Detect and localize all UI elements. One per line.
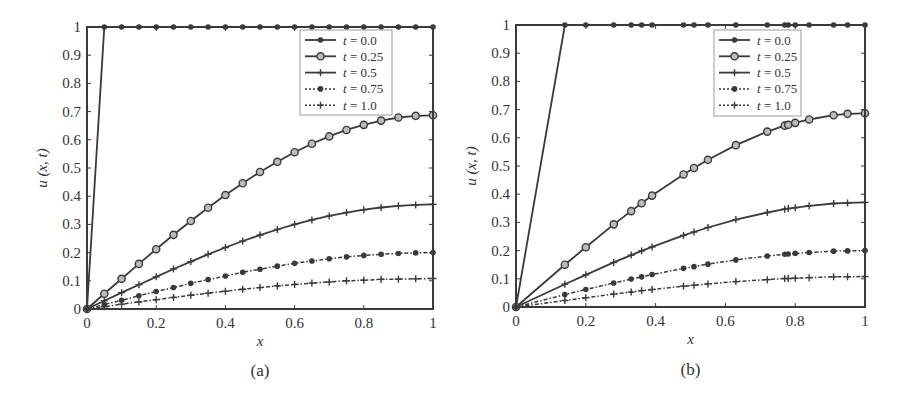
legend-value: = 0.25 — [347, 49, 384, 64]
legend-label: t = 0.0 — [757, 33, 791, 48]
marker-dot — [292, 261, 298, 267]
series-line — [516, 202, 865, 307]
marker-circle — [326, 133, 333, 140]
marker-dot — [344, 254, 350, 260]
marker-dot — [309, 258, 315, 264]
marker-circle — [582, 244, 589, 251]
y-tick-label: 0.7 — [62, 104, 81, 120]
legend-label: t = 0.25 — [343, 49, 383, 64]
y-tick-label: 0.4 — [62, 188, 81, 204]
y-axis-label: u (x, t) — [463, 146, 480, 186]
marker-dot — [691, 264, 697, 270]
marker-dot — [831, 248, 837, 254]
marker-circle — [806, 116, 813, 123]
legend-value: = 0.0 — [761, 33, 791, 48]
marker-dot — [378, 251, 384, 257]
legend-label: t = 0.75 — [343, 81, 383, 96]
marker-dot — [136, 293, 142, 299]
y-tick-label: 0.5 — [491, 158, 510, 174]
marker-dot — [845, 248, 851, 254]
x-tick-label: 0.8 — [786, 313, 805, 329]
x-axis-label: x — [686, 331, 694, 347]
marker-circle — [830, 112, 837, 119]
marker-circle — [101, 290, 108, 297]
y-tick-label: 0.7 — [491, 102, 510, 118]
marker-circle — [638, 200, 645, 207]
series-line — [516, 251, 865, 307]
legend-value: = 1.0 — [347, 98, 377, 113]
marker-circle — [628, 208, 635, 215]
x-tick-label: 1 — [861, 313, 869, 329]
x-tick-label: 0.2 — [147, 315, 166, 331]
y-tick-label: 0.3 — [491, 214, 510, 230]
series-line — [516, 277, 865, 308]
legend-label: t = 0.0 — [343, 33, 377, 48]
series-1.0 — [84, 275, 437, 312]
marker-circle — [764, 128, 771, 135]
x-tick-label: 0 — [512, 313, 520, 329]
marker-circle — [561, 261, 568, 268]
marker-circle — [308, 140, 315, 147]
marker-circle — [844, 110, 851, 117]
marker-dot — [681, 266, 687, 272]
marker-circle — [187, 217, 194, 224]
marker-circle — [291, 149, 298, 156]
marker-dot — [275, 263, 281, 269]
x-tick-label: 0 — [83, 315, 91, 331]
legend-value: = 0.0 — [347, 33, 377, 48]
marker-dot — [171, 285, 177, 291]
marker-dot — [764, 253, 770, 259]
marker-dot — [318, 37, 324, 43]
legend-value: = 0.5 — [761, 65, 791, 80]
legend-label: t = 0.75 — [757, 81, 797, 96]
legend-value: = 0.5 — [347, 65, 377, 80]
legend: t = 0.0t = 0.25t = 0.5t = 0.75t = 1.0 — [300, 30, 392, 115]
marker-dot — [361, 253, 367, 259]
figure: 00.20.40.60.8100.10.20.30.40.50.60.70.80… — [0, 0, 902, 409]
marker-circle — [649, 192, 656, 199]
y-axis-label: u (x, t) — [34, 148, 51, 188]
marker-circle — [153, 246, 160, 253]
y-tick-label: 0.9 — [62, 47, 81, 63]
legend-label: t = 0.5 — [757, 65, 791, 80]
y-tick-label: 0.2 — [62, 245, 81, 261]
marker-dot — [326, 256, 332, 262]
x-tick-label: 0.6 — [716, 313, 735, 329]
y-tick-label: 1 — [74, 19, 82, 35]
marker-dot — [705, 261, 711, 267]
legend-value: = 0.75 — [761, 81, 798, 96]
marker-circle — [704, 156, 711, 163]
y-tick-label: 0.3 — [62, 216, 81, 232]
marker-dot — [188, 281, 194, 287]
marker-dot — [649, 272, 655, 278]
marker-circle — [317, 53, 324, 60]
x-tick-label: 0.4 — [216, 315, 235, 331]
marker-circle — [274, 158, 281, 165]
chart-panel-b: 00.20.40.60.8100.10.20.30.40.50.60.70.80… — [463, 17, 869, 379]
marker-circle — [731, 53, 738, 60]
panel-caption: (a) — [251, 361, 270, 380]
y-tick-label: 0 — [74, 301, 82, 317]
x-tick-label: 0.4 — [646, 313, 665, 329]
marker-circle — [343, 126, 350, 133]
marker-dot — [583, 287, 589, 293]
marker-circle — [256, 168, 263, 175]
legend-value: = 0.25 — [761, 49, 798, 64]
marker-circle — [732, 142, 739, 149]
marker-circle — [239, 180, 246, 187]
y-tick-label: 0 — [503, 299, 511, 315]
y-tick-label: 0.4 — [491, 186, 510, 202]
marker-dot — [806, 250, 812, 256]
y-tick-label: 1 — [503, 17, 511, 33]
marker-dot — [153, 289, 159, 295]
marker-dot — [639, 274, 645, 280]
y-tick-label: 0.6 — [491, 130, 510, 146]
marker-dot — [785, 251, 791, 257]
legend-value: = 1.0 — [761, 98, 791, 113]
x-axis-label: x — [256, 333, 264, 349]
marker-dot — [733, 257, 739, 263]
x-tick-label: 0.2 — [576, 313, 595, 329]
marker-circle — [360, 121, 367, 128]
y-tick-label: 0.8 — [62, 75, 81, 91]
series-0.25 — [512, 110, 868, 311]
